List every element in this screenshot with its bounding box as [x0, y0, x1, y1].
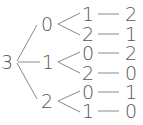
node-l1-2: 2	[41, 90, 53, 112]
node-l2-2b: 1	[82, 100, 94, 122]
edge-1-a	[58, 52, 80, 62]
edge-root-2	[17, 63, 37, 99]
edge-0-a	[58, 13, 80, 24]
edge-0-b	[58, 24, 80, 35]
node-root: 3	[1, 51, 13, 73]
leaf-2b: 0	[125, 100, 137, 122]
node-l1-0: 0	[41, 13, 53, 35]
leaf-0a: 2	[125, 3, 137, 25]
leaf-1a: 2	[125, 42, 137, 64]
edge-root-0	[17, 25, 37, 61]
node-l1-1: 1	[42, 51, 54, 73]
edge-1-b	[58, 62, 80, 73]
edge-2-a	[58, 91, 80, 101]
node-l2-1a: 0	[82, 42, 94, 64]
edge-2-b	[58, 101, 80, 112]
node-l2-0a: 1	[82, 3, 94, 25]
tree-diagram: 3 0 1 2 1 2 0 2 0 1 2 1 2 0 1 0	[0, 0, 143, 125]
